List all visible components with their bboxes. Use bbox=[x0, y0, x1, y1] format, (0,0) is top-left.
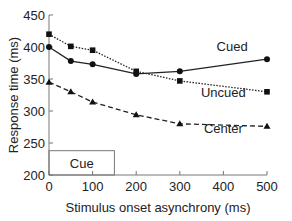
series-label-cued: Cued bbox=[217, 39, 248, 54]
y-tick-label: 350 bbox=[23, 72, 45, 87]
y-tick-label: 250 bbox=[23, 136, 45, 151]
circle-marker-icon bbox=[177, 68, 183, 74]
y-tick-label: 450 bbox=[23, 8, 45, 23]
square-marker-icon bbox=[133, 69, 139, 75]
x-tick-label: 500 bbox=[256, 179, 278, 194]
cue-label: Cue bbox=[70, 156, 94, 171]
triangle-marker-icon bbox=[264, 123, 271, 129]
series-label-center: Center bbox=[204, 121, 244, 136]
y-tick-label: 300 bbox=[23, 104, 45, 119]
x-tick-label: 400 bbox=[213, 179, 235, 194]
square-marker-icon bbox=[264, 89, 270, 95]
circle-marker-icon bbox=[90, 61, 96, 67]
triangle-marker-icon bbox=[67, 88, 74, 94]
y-tick-label: 200 bbox=[23, 168, 45, 183]
square-marker-icon bbox=[177, 78, 183, 84]
x-axis-label: Stimulus onset asynchrony (ms) bbox=[66, 200, 251, 215]
square-marker-icon bbox=[68, 44, 74, 50]
square-marker-icon bbox=[46, 31, 52, 37]
x-tick-label: 100 bbox=[82, 179, 104, 194]
x-tick-label: 200 bbox=[125, 179, 147, 194]
circle-marker-icon bbox=[68, 58, 74, 64]
cue-box: Cue bbox=[49, 151, 114, 175]
square-marker-icon bbox=[90, 47, 96, 53]
x-tick-label: 0 bbox=[45, 179, 52, 194]
series-label-uncued: Uncued bbox=[201, 85, 246, 100]
labels: CuedUncuedCenter bbox=[201, 39, 248, 136]
y-axis-label: Response time (ms) bbox=[6, 37, 21, 153]
circle-marker-icon bbox=[264, 56, 270, 62]
y-tick-label: 400 bbox=[23, 40, 45, 55]
x-tick-label: 300 bbox=[169, 179, 191, 194]
response-time-chart: 2002503003504004500100200300400500Stimul… bbox=[0, 0, 292, 221]
triangle-marker-icon bbox=[46, 79, 53, 85]
circle-marker-icon bbox=[46, 44, 52, 50]
triangle-marker-icon bbox=[89, 99, 96, 105]
